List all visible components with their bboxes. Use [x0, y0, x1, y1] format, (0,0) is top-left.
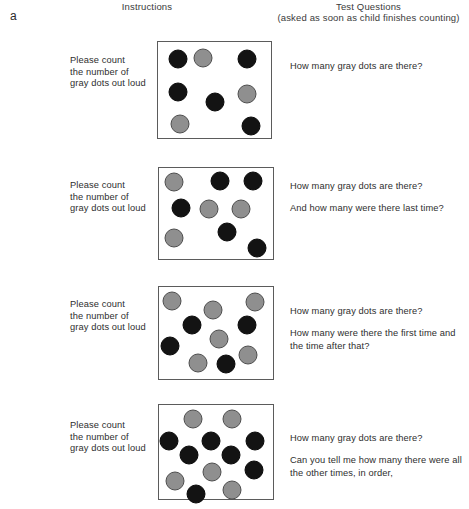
gray-dot	[223, 410, 242, 429]
instruction-line: gray dots out loud	[70, 203, 156, 215]
column-header-instructions: Instructions	[62, 1, 232, 12]
dot-array-box	[158, 404, 274, 500]
column-header-test-questions-line2: (asked as soon as child finishes countin…	[268, 12, 469, 23]
instruction-text: Please countthe number ofgray dots out l…	[70, 299, 156, 334]
gray-dot	[203, 463, 222, 482]
dot-array-box	[157, 41, 272, 139]
black-dot	[222, 446, 241, 465]
black-dot	[242, 117, 261, 136]
black-dot	[161, 337, 180, 356]
test-question: Can you tell me how many there were all …	[290, 454, 468, 479]
instruction-line: the number of	[70, 432, 156, 444]
instruction-line: the number of	[70, 311, 156, 323]
gray-dot	[200, 200, 219, 219]
black-dot	[246, 432, 265, 451]
gray-dot	[184, 410, 203, 429]
instruction-text: Please countthe number ofgray dots out l…	[70, 180, 156, 215]
gray-dot	[204, 301, 223, 320]
black-dot	[187, 485, 206, 504]
column-header-test-questions-line1: Test Questions	[268, 1, 469, 12]
black-dot	[202, 432, 221, 451]
black-dot	[172, 199, 191, 218]
test-question: How many gray dots are there?	[290, 60, 468, 72]
black-dot	[217, 355, 236, 374]
gray-dot	[239, 346, 258, 365]
gray-dot	[165, 229, 184, 248]
instruction-line: gray dots out loud	[70, 443, 156, 455]
black-dot	[238, 50, 257, 69]
gray-dot	[223, 481, 242, 500]
test-question-text: How many gray dots are there?How many we…	[290, 305, 468, 352]
gray-dot	[210, 330, 229, 349]
instruction-text: Please countthe number ofgray dots out l…	[70, 55, 156, 90]
dot-array-box	[158, 167, 274, 260]
black-dot	[183, 316, 202, 335]
gray-dot	[171, 115, 190, 134]
gray-dot	[163, 292, 182, 311]
instruction-line: Please count	[70, 55, 156, 67]
black-dot	[160, 432, 179, 451]
gray-dot	[165, 173, 184, 192]
dot-array-box	[158, 286, 274, 380]
instruction-line: Please count	[70, 299, 156, 311]
test-question: How many gray dots are there?	[290, 180, 468, 192]
gray-dot	[189, 354, 208, 373]
test-question-text: How many gray dots are there?	[290, 60, 468, 72]
black-dot	[245, 461, 264, 480]
gray-dot	[194, 49, 213, 68]
gray-dot	[166, 472, 185, 491]
black-dot	[206, 93, 225, 112]
figure-root: a Instructions Test Questions (asked as …	[0, 0, 469, 509]
instruction-text: Please countthe number ofgray dots out l…	[70, 420, 156, 455]
black-dot	[211, 172, 230, 191]
instruction-line: the number of	[70, 192, 156, 204]
gray-dot	[246, 293, 265, 312]
instruction-line: Please count	[70, 420, 156, 432]
instruction-line: Please count	[70, 180, 156, 192]
instruction-line: the number of	[70, 67, 156, 79]
test-question: How many gray dots are there?	[290, 432, 468, 444]
black-dot	[169, 50, 188, 69]
panel-letter-label: a	[10, 10, 17, 22]
black-dot	[244, 172, 263, 191]
black-dot	[248, 239, 267, 258]
column-header-test-questions: Test Questions (asked as soon as child f…	[268, 1, 469, 23]
test-question: And how many were there last time?	[290, 202, 468, 214]
instruction-line: gray dots out loud	[70, 78, 156, 90]
test-question: How many were there the first time and t…	[290, 327, 468, 352]
black-dot	[169, 83, 188, 102]
black-dot	[238, 316, 257, 335]
black-dot	[218, 223, 237, 242]
gray-dot	[238, 85, 257, 104]
test-question-text: How many gray dots are there?Can you tel…	[290, 432, 468, 479]
instruction-line: gray dots out loud	[70, 322, 156, 334]
test-question-text: How many gray dots are there?And how man…	[290, 180, 468, 215]
test-question: How many gray dots are there?	[290, 305, 468, 317]
gray-dot	[232, 200, 251, 219]
black-dot	[180, 446, 199, 465]
